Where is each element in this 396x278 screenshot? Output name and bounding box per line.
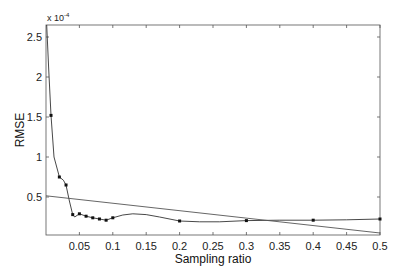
x-tick-label: 0.35 [269, 240, 290, 252]
x-tick-label: 0.4 [306, 240, 321, 252]
data-point-marker [98, 218, 101, 221]
data-point-marker [58, 176, 61, 179]
data-point-marker [105, 219, 108, 222]
x-tick-label: 0.45 [336, 240, 357, 252]
y-tick-label: 1 [36, 151, 42, 163]
data-point-marker [50, 114, 53, 117]
x-tick-label: 0.5 [372, 240, 387, 252]
x-tick-label: 0.1 [105, 240, 120, 252]
data-point-marker [379, 218, 382, 221]
data-point-marker [178, 220, 181, 223]
plot-area [46, 25, 380, 235]
y-tick-label: 2 [36, 71, 42, 83]
data-point-marker [312, 219, 315, 222]
x-tick-label: 0.15 [135, 240, 156, 252]
x-tick-label: 0.3 [239, 240, 254, 252]
data-point-marker [65, 184, 68, 187]
data-point-marker [245, 219, 248, 222]
data-point-marker [111, 216, 114, 219]
y-tick-label: 0.5 [27, 191, 42, 203]
y-exponent-label: x 10-4 [47, 12, 70, 23]
rmse-chart: 0.050.10.150.20.250.30.350.40.450.5 0.51… [0, 0, 396, 278]
y-axis-label: RMSE [13, 113, 27, 148]
data-point-marker [71, 213, 74, 216]
x-tick-label: 0.2 [172, 240, 187, 252]
data-point-marker [85, 215, 88, 218]
x-tick-label: 0.25 [202, 240, 223, 252]
x-tick-label: 0.05 [69, 240, 90, 252]
x-axis-label: Sampling ratio [175, 252, 252, 266]
y-tick-label: 1.5 [27, 111, 42, 123]
plot-frame [46, 25, 380, 235]
data-point-marker [78, 212, 81, 215]
data-point-marker [91, 216, 94, 219]
y-tick-label: 2.5 [27, 31, 42, 43]
